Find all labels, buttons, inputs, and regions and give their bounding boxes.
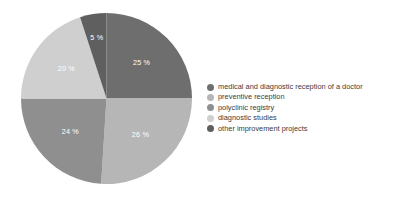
legend-marker-icon <box>207 104 214 111</box>
legend-item-label: preventive reception <box>218 92 285 102</box>
slice-label-medical: 25 % <box>133 58 151 67</box>
slice-label-diagnostic: 20 % <box>58 64 76 73</box>
legend-marker-icon <box>207 125 214 132</box>
pie-chart-figure: 25 % 26 % 24 % 20 % 5 % medical and diag… <box>0 0 420 202</box>
slice-label-preventive: 26 % <box>132 130 150 139</box>
legend-item-label: diagnostic studies <box>218 113 277 123</box>
legend-marker-icon <box>207 115 214 122</box>
pie-slice <box>101 99 192 184</box>
legend-item-label: medical and diagnostic reception of a do… <box>218 82 363 92</box>
pie-slice <box>107 13 193 99</box>
legend-item-registry: polyclinic registry <box>207 103 415 113</box>
pie-slice-group <box>21 13 192 184</box>
legend-item-preventive: preventive reception <box>207 92 415 102</box>
legend-item-medical: medical and diagnostic reception of a do… <box>207 82 415 92</box>
slice-label-other: 5 % <box>90 33 103 42</box>
legend-item-label: polyclinic registry <box>218 103 274 113</box>
slice-label-registry: 24 % <box>62 127 80 136</box>
legend-marker-icon <box>207 84 214 91</box>
legend-marker-icon <box>207 94 214 101</box>
pie-svg: 25 % 26 % 24 % 20 % 5 % <box>21 13 192 184</box>
pie-chart-graphic: 25 % 26 % 24 % 20 % 5 % <box>21 13 192 184</box>
pie-slice <box>21 99 107 184</box>
legend-item-label: other improvement projects <box>218 124 308 134</box>
legend-item-diagnostic: diagnostic studies <box>207 113 415 123</box>
chart-legend: medical and diagnostic reception of a do… <box>207 82 415 134</box>
legend-item-other: other improvement projects <box>207 124 415 134</box>
